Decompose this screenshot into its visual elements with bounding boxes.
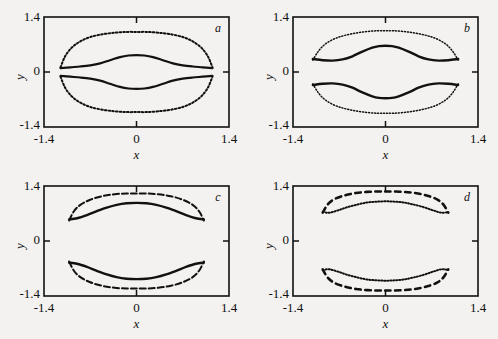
panel-label-a: a xyxy=(211,21,225,36)
xtick-label-mid: 0 xyxy=(120,131,154,147)
panel-c: 1.40-1.4-1.401.4xyc xyxy=(0,169,249,339)
x-axis-label: x xyxy=(376,316,396,332)
curve-upper-inner-solid xyxy=(69,203,204,220)
panel-a: 1.40-1.4-1.401.4xya xyxy=(0,0,249,169)
ytick-label-top: 1.4 xyxy=(257,9,289,25)
curve-lower-inner-solid xyxy=(61,76,213,89)
y-axis-label: y xyxy=(12,243,28,249)
plot-frame xyxy=(293,186,478,296)
xtick-label-right: 1.4 xyxy=(461,300,495,316)
curve-lower-outer-dotted xyxy=(61,77,213,112)
x-axis-label: x xyxy=(127,316,147,332)
ytick-label-top: 1.4 xyxy=(8,178,40,194)
x-axis-label: x xyxy=(127,147,147,163)
plot-frame xyxy=(293,17,478,127)
xtick-label-mid: 0 xyxy=(369,131,403,147)
curve-upper-inner-solid xyxy=(313,46,458,61)
panel-label-c: c xyxy=(211,190,225,205)
xtick-label-mid: 0 xyxy=(120,300,154,316)
y-axis-label: y xyxy=(261,243,277,249)
curve-upper-outer-dashed xyxy=(69,193,204,220)
curve-upper-inner-solid xyxy=(61,55,213,68)
plot-frame xyxy=(44,17,229,127)
curve-lower-inner-solid xyxy=(313,83,458,98)
xtick-label-left: -1.4 xyxy=(27,300,61,316)
ytick-label-top: 1.4 xyxy=(8,9,40,25)
xtick-label-left: -1.4 xyxy=(276,300,310,316)
panel-label-b: b xyxy=(460,21,474,36)
xtick-label-right: 1.4 xyxy=(212,300,246,316)
curve-lower-outer-dashed xyxy=(69,261,204,288)
panel-d: 1.40-1.4-1.401.4xyd xyxy=(249,169,498,339)
xtick-label-right: 1.4 xyxy=(461,131,495,147)
y-axis-label: y xyxy=(12,74,28,80)
curve-lower-inner-solid xyxy=(69,263,204,280)
xtick-label-right: 1.4 xyxy=(212,131,246,147)
panel-b: 1.40-1.4-1.401.4xyb xyxy=(249,0,498,169)
xtick-label-mid: 0 xyxy=(369,300,403,316)
curve-upper-inner-dotted xyxy=(323,201,449,212)
x-axis-label: x xyxy=(376,147,396,163)
panel-label-d: d xyxy=(460,190,474,205)
curve-upper-outer-dotted xyxy=(61,32,213,67)
y-axis-label: y xyxy=(261,74,277,80)
ytick-label-top: 1.4 xyxy=(257,178,289,194)
figure-panel-grid: 1.40-1.4-1.401.4xya1.40-1.4-1.401.4xyb1.… xyxy=(0,0,498,339)
xtick-label-left: -1.4 xyxy=(276,131,310,147)
curve-lower-inner-dotted xyxy=(323,269,449,280)
xtick-label-left: -1.4 xyxy=(27,131,61,147)
